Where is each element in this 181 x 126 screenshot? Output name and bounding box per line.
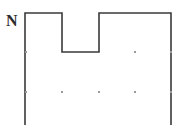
vertex-dot-group <box>25 51 172 93</box>
vertex-dot <box>134 51 136 53</box>
vertex-dot <box>170 91 172 93</box>
vertex-dot <box>25 91 27 93</box>
vertex-dot <box>98 91 100 93</box>
vertex-dot <box>170 51 172 53</box>
polygon-drawing <box>0 0 181 126</box>
vertex-dot <box>61 91 63 93</box>
figure-canvas: N <box>0 0 181 126</box>
vertex-dot <box>25 51 27 53</box>
notched-rectangle-outline <box>25 13 171 125</box>
vertex-dot <box>134 91 136 93</box>
